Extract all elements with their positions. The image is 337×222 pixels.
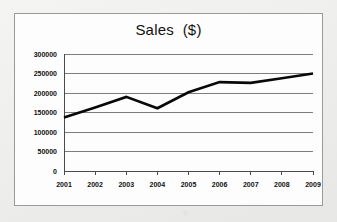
y-axis-tick-label: 0: [53, 168, 57, 175]
y-axis-tick-label: 250000: [34, 70, 57, 77]
x-axis-tick-label: 2002: [87, 181, 103, 188]
x-axis-tick-label: 2005: [181, 181, 197, 188]
x-axis-tick-marks: [64, 171, 313, 175]
y-axis-tick-label: 200000: [34, 90, 57, 97]
x-axis-tick-label: 2008: [274, 181, 290, 188]
x-axis-tick-labels: 200120022003200420052006200720082009: [56, 181, 321, 188]
sales-series-line: [64, 74, 313, 118]
x-axis-tick-label: 2004: [150, 181, 166, 188]
x-axis-tick-label: 2009: [305, 181, 321, 188]
y-axis-tick-label: 100000: [34, 129, 57, 136]
gridlines-group: [64, 54, 313, 171]
x-axis-tick-label: 2006: [212, 181, 228, 188]
chart-frame: Sales ($) 050000100000150000200000250000…: [14, 13, 323, 206]
x-axis-tick-label: 2003: [118, 181, 134, 188]
line-chart-plot: 050000100000150000200000250000300000 200…: [15, 14, 322, 205]
y-axis-tick-label: 300000: [34, 51, 57, 58]
y-axis-tick-labels: 050000100000150000200000250000300000: [34, 51, 57, 175]
x-axis-tick-label: 2007: [243, 181, 259, 188]
y-axis-tick-label: 150000: [34, 109, 57, 116]
x-axis-tick-label: 2001: [56, 181, 72, 188]
y-axis-tick-label: 50000: [38, 148, 58, 155]
